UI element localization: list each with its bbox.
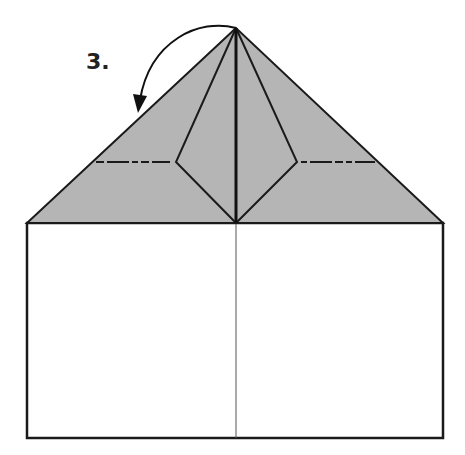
origami-fold-diagram (0, 0, 465, 455)
paper-body-rectangle (27, 223, 443, 438)
arrow-head-icon (133, 94, 147, 113)
